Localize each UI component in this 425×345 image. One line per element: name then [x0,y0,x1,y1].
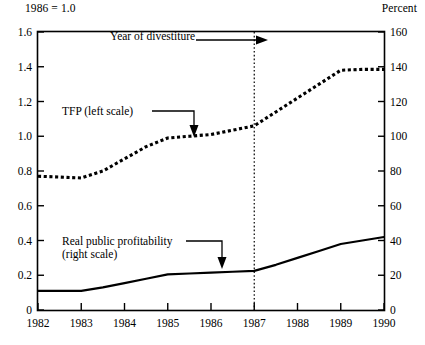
axis-tick-label: 1989 [329,317,352,329]
annotation-rpp-line2: (right scale) [62,248,117,260]
axis-tick-label: 1.0 [18,130,33,142]
axis-tick-label: 1986 [200,317,223,329]
axis-tick-label: 0.6 [18,200,33,212]
axis-tick-label: 40 [390,235,402,247]
axis-tick-label: 60 [390,200,402,212]
annotation-rpp-line1: Real public profitability [62,235,173,247]
axis-tick-label: 1.4 [18,61,33,73]
axis-tick-label: 0.4 [18,235,33,247]
axis-tick-label: 120 [390,96,408,108]
axis-tick-label: 0.2 [18,269,33,281]
rpp-arrow-shaft [186,241,222,259]
plot-frame [38,32,385,311]
axis-tick-label: 0 [390,304,396,316]
axis-tick-label: 140 [390,61,408,73]
axis-tick-label: 1.2 [18,96,33,108]
axis-tick-label: 1983 [70,317,93,329]
right-axis-ticks [378,32,384,310]
axis-tick-label: 0 [26,304,32,316]
plot-area: 00.20.40.60.81.01.21.41.6 02040608010012… [0,0,425,345]
axis-tick-label: 20 [390,269,402,281]
axis-tick-label: 1988 [286,317,309,329]
x-axis-labels: 198219831984198519861987198819891990 [27,317,396,329]
chart-figure: 1986 = 1.0 Percent Year of divestiture T… [0,0,425,345]
axis-tick-label: 1.6 [18,26,33,38]
annotation-divestiture: Year of divestiture [110,30,195,43]
left-axis-ticks [38,32,44,310]
axis-tick-label: 1990 [373,317,396,329]
axis-tick-label: 0.8 [18,165,33,177]
rpp-arrow-head [218,257,227,269]
axis-tick-label: 160 [390,26,408,38]
annotation-real-public-profitability: Real public profitability (right scale) [62,235,173,261]
axis-tick-label: 80 [390,165,402,177]
left-axis-note: 1986 = 1.0 [25,2,76,14]
axis-tick-label: 1982 [27,317,50,329]
right-axis-labels: 020406080100120140160 [390,26,408,316]
axis-tick-label: 1984 [113,317,136,329]
right-axis-note: Percent [382,2,417,14]
x-axis-ticks [38,303,384,310]
axis-tick-label: 1987 [243,317,266,329]
tfp-arrow-shaft [152,111,194,127]
series-line [38,69,384,178]
annotation-arrows [152,36,268,270]
divestiture-arrow-head [256,36,268,45]
axis-tick-label: 100 [390,130,408,142]
axis-tick-label: 1985 [156,317,179,329]
left-axis-labels: 00.20.40.60.81.01.21.41.6 [18,26,33,316]
annotation-tfp: TFP (left scale) [62,105,133,118]
